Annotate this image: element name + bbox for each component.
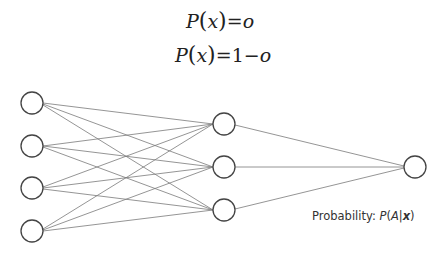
input-node-4 [21,220,43,242]
label-prefix: Probability: [312,209,379,223]
edge [43,189,213,210]
edge [43,124,213,146]
output-probability-label: Probability: P(A|x) [312,209,415,223]
hidden-node-2 [213,156,235,178]
hidden-node-3 [213,199,235,221]
output-node [404,156,426,178]
edge [235,168,404,209]
label-close-paren: ) [410,209,415,223]
edge [235,125,404,166]
label-event: A [391,209,399,223]
input-node-2 [21,135,43,157]
hidden-node-1 [213,113,235,135]
input-node-1 [21,92,43,114]
label-given-var: x [403,209,410,223]
input-node-3 [21,177,43,199]
